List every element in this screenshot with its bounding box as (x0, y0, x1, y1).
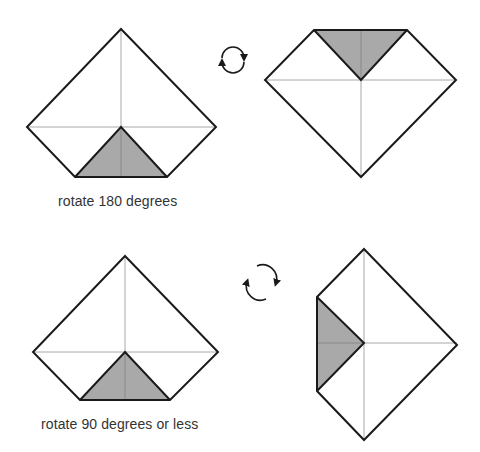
rotate-arrows-icon (246, 265, 276, 300)
step1-after-figure (265, 30, 456, 177)
origami-diagram (0, 0, 480, 452)
step2-after-figure (317, 249, 457, 440)
step2-caption: rotate 90 degrees or less (41, 416, 198, 432)
step2-before-figure (33, 256, 218, 400)
step1-caption: rotate 180 degrees (58, 193, 177, 209)
circular-arrows-clockwise-icon (222, 47, 244, 73)
step1-before-figure (27, 29, 216, 177)
